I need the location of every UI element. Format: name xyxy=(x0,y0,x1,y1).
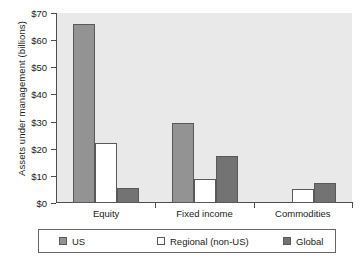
y-axis-tick xyxy=(51,13,56,14)
x-axis-label: Equity xyxy=(93,208,119,219)
x-axis-label: Commodities xyxy=(275,208,330,219)
bar-commodities-global xyxy=(314,183,336,203)
bar-fixed-income-regional xyxy=(194,179,216,203)
chart-legend: US Regional (non-US) Global xyxy=(38,229,336,253)
y-axis-tick-label: $70 xyxy=(1,8,47,19)
legend-label-regional: Regional (non-US) xyxy=(170,236,249,247)
legend-item-regional: Regional (non-US) xyxy=(157,236,249,247)
bar-commodities-regional xyxy=(292,189,314,203)
x-axis-separator-tick xyxy=(254,203,255,208)
y-axis-tick-label: $40 xyxy=(1,89,47,100)
legend-label-us: US xyxy=(72,236,85,247)
y-axis-tick xyxy=(51,67,56,68)
y-axis-tick-label: $10 xyxy=(1,170,47,181)
y-axis-tick xyxy=(51,203,56,204)
y-axis-tick-label: $60 xyxy=(1,35,47,46)
y-axis-tick-label: $30 xyxy=(1,116,47,127)
bar-chart: Assets under management (billions) $0$10… xyxy=(0,0,360,262)
legend-item-us: US xyxy=(59,236,85,247)
y-axis-tick xyxy=(51,94,56,95)
bar-equity-global xyxy=(117,188,139,203)
x-axis-label: Fixed income xyxy=(176,208,233,219)
y-axis-tick-label: $50 xyxy=(1,62,47,73)
legend-swatch-icon-us xyxy=(59,237,67,245)
legend-swatch-icon-regional xyxy=(157,237,165,245)
y-axis-line xyxy=(56,13,57,203)
bar-equity-regional xyxy=(95,143,117,203)
y-axis-tick xyxy=(51,149,56,150)
y-axis-tick-label: $20 xyxy=(1,143,47,154)
y-axis-tick xyxy=(51,40,56,41)
x-axis-separator-tick xyxy=(155,203,156,208)
bar-fixed-income-us xyxy=(172,123,194,203)
x-axis-separator-tick xyxy=(352,203,353,208)
legend-item-global: Global xyxy=(283,236,323,247)
bar-equity-us xyxy=(73,24,95,203)
y-axis-tick-label: $0 xyxy=(1,198,47,209)
y-axis-tick xyxy=(51,176,56,177)
legend-label-global: Global xyxy=(296,236,323,247)
bar-fixed-income-global xyxy=(216,156,238,204)
legend-swatch-icon-global xyxy=(283,237,291,245)
y-axis-tick xyxy=(51,122,56,123)
